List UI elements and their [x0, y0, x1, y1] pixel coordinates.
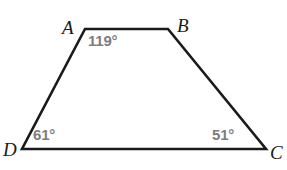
vertex-label-d: D [3, 140, 17, 159]
vertex-label-b: B [177, 16, 189, 35]
vertex-label-a: A [62, 18, 74, 37]
quadrilateral-shape [0, 0, 287, 170]
angle-measure-c: 51° [212, 127, 234, 142]
vertex-label-c: C [270, 143, 283, 162]
angle-measure-a: 119° [88, 33, 117, 48]
geometry-figure: A B C D 119° 61° 51° [0, 0, 287, 170]
angle-measure-d: 61° [33, 127, 55, 142]
